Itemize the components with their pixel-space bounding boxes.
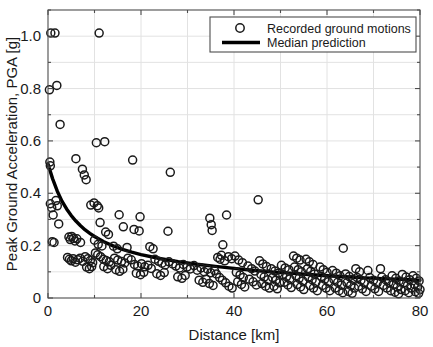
legend-entry-label: Median prediction [267, 36, 366, 50]
x-tick-label: 40 [226, 302, 243, 319]
chart-legend: Recorded ground motionsMedian prediction [210, 17, 416, 52]
y-tick-label: 0.8 [20, 80, 41, 97]
x-tick-label: 0 [44, 302, 52, 319]
chart-figure: 02040608000.20.40.60.81.0 Recorded groun… [0, 0, 433, 347]
y-tick-label: 0.6 [20, 132, 41, 149]
x-tick-label: 60 [319, 302, 336, 319]
scatter-plot-svg: 02040608000.20.40.60.81.0 Recorded groun… [0, 0, 433, 347]
x-tick-label: 20 [133, 302, 150, 319]
y-tick-label: 0 [33, 289, 41, 306]
y-axis-title: Peak Ground Acceleration, PGA [g] [3, 37, 20, 271]
legend-entry-label: Recorded ground motions [267, 22, 411, 36]
y-tick-label: 1.0 [20, 27, 41, 44]
x-axis-title: Distance [km] [189, 326, 280, 343]
y-tick-label: 0.2 [20, 237, 41, 254]
y-tick-label: 0.4 [20, 184, 41, 201]
x-tick-label: 80 [412, 302, 429, 319]
